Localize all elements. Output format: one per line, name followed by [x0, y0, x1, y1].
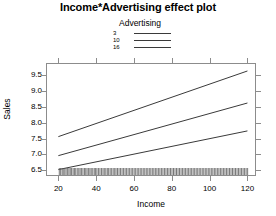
- x-tick-label: 60: [119, 185, 149, 193]
- legend-line-sample-1: [129, 30, 173, 37]
- x-tick-mark: [134, 176, 135, 181]
- y-tick-label: 6.5: [16, 166, 42, 174]
- x-tick-label: 40: [81, 185, 111, 193]
- legend-title: Advertising: [113, 18, 203, 28]
- y-tick-label: 9.0: [16, 87, 42, 95]
- y-tick-label: 7.0: [16, 150, 42, 158]
- effect-line-16: [58, 71, 247, 137]
- x-tick-label: 120: [232, 185, 262, 193]
- y-tick-label: 9.5: [16, 71, 42, 79]
- legend-key-2: 10: [113, 37, 129, 44]
- legend-item: 3: [113, 30, 203, 37]
- effect-line-10: [58, 103, 247, 156]
- effect-plot: Income*Advertising effect plot Advertisi…: [0, 0, 276, 216]
- x-tick-mark: [210, 176, 211, 181]
- x-tick-label: 100: [195, 185, 225, 193]
- x-tick-mark: [58, 176, 59, 181]
- y-tick-mark-right: [256, 75, 261, 76]
- y-tick-mark-right: [256, 154, 261, 155]
- effect-line-3: [58, 131, 247, 170]
- y-axis-ticks: 6.57.07.58.08.59.09.5: [12, 0, 42, 216]
- x-tick-label: 80: [157, 185, 187, 193]
- x-tick-label: 20: [43, 185, 73, 193]
- plot-area: [46, 63, 256, 176]
- legend-line-sample-2: [129, 37, 173, 44]
- y-tick-label: 7.5: [16, 135, 42, 143]
- legend-key-3: 16: [113, 44, 129, 51]
- y-tick-label: 8.5: [16, 103, 42, 111]
- plot-lines: [47, 64, 255, 175]
- y-axis-label: Sales: [2, 84, 12, 134]
- y-tick-label: 8.0: [16, 119, 42, 127]
- legend-item: 10: [113, 37, 203, 44]
- y-tick-mark-right: [256, 107, 261, 108]
- y-tick-mark-right: [256, 91, 261, 92]
- x-axis-label: Income: [46, 199, 256, 209]
- legend-key-1: 3: [113, 30, 129, 37]
- x-tick-mark: [96, 176, 97, 181]
- legend-item: 16: [113, 44, 203, 51]
- rug-plot: [59, 168, 247, 175]
- legend: Advertising 3 10 16: [113, 18, 203, 51]
- x-tick-mark: [172, 176, 173, 181]
- y-tick-mark-right: [256, 170, 261, 171]
- y-tick-mark-right: [256, 139, 261, 140]
- x-tick-mark: [247, 176, 248, 181]
- legend-line-sample-3: [129, 44, 173, 51]
- y-tick-mark-right: [256, 123, 261, 124]
